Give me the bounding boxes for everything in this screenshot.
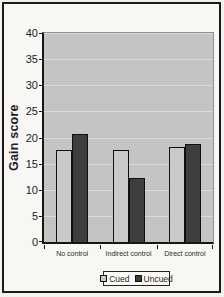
y-tick-label: 30 bbox=[26, 79, 38, 91]
gridline bbox=[44, 59, 213, 60]
x-category-label: Indirect control bbox=[106, 250, 152, 257]
y-tick-mark bbox=[39, 241, 42, 242]
x-tick-mark bbox=[44, 245, 45, 249]
gridline bbox=[44, 138, 213, 139]
y-tick-label: 0 bbox=[32, 236, 38, 248]
gridline bbox=[44, 33, 213, 34]
bar-cued-indirect-control bbox=[113, 150, 129, 242]
legend-label: Uncued bbox=[144, 274, 173, 284]
legend-item-cued: Cued bbox=[100, 274, 129, 284]
x-tick-mark bbox=[100, 245, 101, 249]
y-tick-mark bbox=[39, 138, 42, 139]
legend-label: Cued bbox=[109, 274, 129, 284]
plot-area bbox=[42, 32, 214, 244]
gridline bbox=[44, 85, 213, 86]
y-axis-tick-labels: 0510152025303540 bbox=[4, 33, 40, 242]
bar-cued-no-control bbox=[56, 150, 72, 242]
y-tick-mark bbox=[39, 111, 42, 112]
y-tick-label: 5 bbox=[32, 210, 38, 222]
y-tick-mark bbox=[39, 59, 42, 60]
y-tick-label: 20 bbox=[26, 132, 38, 144]
legend-swatch-uncued-icon bbox=[135, 275, 142, 282]
bar-uncued-indirect-control bbox=[129, 178, 145, 242]
x-category-label: Direct control bbox=[164, 250, 205, 257]
y-tick-mark bbox=[39, 33, 42, 34]
x-tick-mark bbox=[157, 245, 158, 249]
y-tick-label: 40 bbox=[26, 27, 38, 39]
y-tick-label: 10 bbox=[26, 184, 38, 196]
legend: CuedUncued bbox=[103, 271, 170, 286]
legend-swatch-cued-icon bbox=[100, 275, 107, 282]
bar-uncued-no-control bbox=[72, 134, 88, 242]
y-tick-mark bbox=[39, 85, 42, 86]
x-category-label: No control bbox=[56, 250, 88, 257]
x-axis-category-labels: No controlIndirect controlDirect control bbox=[44, 250, 213, 262]
y-tick-label: 15 bbox=[26, 158, 38, 170]
y-tick-label: 35 bbox=[26, 53, 38, 65]
chart-frame: Gain score 0510152025303540 No controlIn… bbox=[2, 2, 221, 293]
legend-item-uncued: Uncued bbox=[135, 274, 173, 284]
x-tick-mark bbox=[212, 245, 213, 249]
y-tick-mark bbox=[39, 216, 42, 217]
bar-uncued-direct-control bbox=[185, 144, 201, 242]
y-tick-label: 25 bbox=[26, 105, 38, 117]
bar-cued-direct-control bbox=[169, 147, 185, 242]
gridline bbox=[44, 111, 213, 112]
y-tick-mark bbox=[39, 164, 42, 165]
y-tick-mark bbox=[39, 190, 42, 191]
